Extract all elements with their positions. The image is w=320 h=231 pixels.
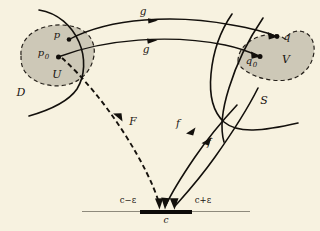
map-g-upper-arc: [70, 19, 275, 39]
svg-text:p: p: [38, 47, 45, 58]
map-f-lower-arc: [175, 88, 258, 206]
domain-region-label: D: [16, 86, 26, 99]
map-f-upper-arrowhead-mid: [186, 128, 196, 136]
codomain-region-label: S: [260, 94, 268, 107]
map-f-lower-label: f: [206, 136, 213, 148]
map-g-upper-label: g: [140, 5, 147, 17]
figure-canvas: p p 0 U D q q 0 V S g g f f F c−ε: [0, 0, 320, 231]
domain-blob-interior-label: U: [52, 68, 62, 81]
point-p0-dot: [56, 55, 61, 60]
point-p-label: p: [54, 29, 61, 40]
axis-left-endpoint-label: c−ε: [120, 195, 137, 205]
point-p-dot: [67, 37, 72, 42]
svg-text:0: 0: [45, 53, 50, 61]
real-axis-group: [82, 212, 250, 213]
svg-text:q: q: [246, 55, 252, 66]
axis-center-label: c: [163, 215, 168, 225]
map-F-label: F: [128, 115, 137, 127]
point-q0-dot: [258, 54, 263, 59]
point-q-dot: [275, 34, 280, 39]
map-g-lower-label: g: [143, 43, 150, 55]
codomain-blob-interior-label: V: [282, 53, 291, 66]
boundary-curve-right-inner: [222, 18, 263, 142]
point-q-label: q: [284, 31, 290, 42]
svg-text:0: 0: [253, 61, 258, 69]
map-f-upper-label: f: [175, 117, 182, 129]
diagram-svg: p p 0 U D q q 0 V S g g f f F c−ε: [0, 0, 320, 231]
axis-right-endpoint-label: c+ε: [195, 195, 212, 205]
map-F-arrowhead: [155, 198, 163, 209]
